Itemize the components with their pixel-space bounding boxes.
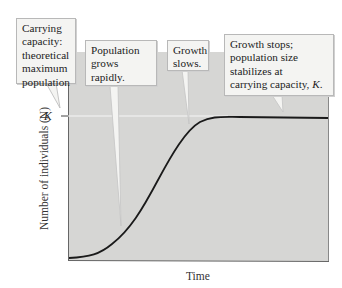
callout-growth-slows: Growth slows. [167,40,209,71]
callout-line: grows rapidly. [91,57,151,84]
callout-line: theoretical [22,49,70,62]
x-axis-label: Time [186,270,210,282]
callout-line: capacity: [22,35,70,48]
callout-line: population [22,76,70,89]
callout-line: maximum [22,62,70,75]
callout-line: Carrying [22,22,70,35]
y-axis-label: Number of individuals (N) [38,107,50,230]
callout-line: stabilizes at [230,65,328,78]
callout-line: Growth [173,44,203,57]
callout-growth-stops: Growth stops; population size stabilizes… [224,34,334,96]
callout-grows-rapidly: Population grows rapidly. [85,40,157,86]
callout-text: carrying capacity, [230,78,312,90]
callout-line: carrying capacity, K. [230,78,328,91]
k-symbol: K [312,78,319,90]
callout-line: Population [91,44,151,57]
callout-period: . [320,78,323,90]
callout-carrying-capacity: Carrying capacity: theoretical maximum p… [16,18,76,84]
callout-line: Growth stops; [230,38,328,51]
callout-line: population size [230,51,328,64]
callout-line: slows. [173,57,203,70]
